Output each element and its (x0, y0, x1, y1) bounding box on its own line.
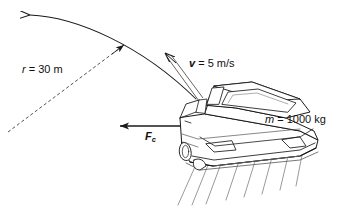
radius-equals: = (26, 63, 39, 75)
label-force: Fc (145, 131, 156, 144)
mass-symbol: m (265, 113, 274, 125)
physics-diagram-canvas (0, 0, 343, 209)
velocity-value: 5 m/s (208, 57, 235, 69)
velocity-equals: = (195, 57, 208, 69)
force-symbol: F (145, 130, 152, 142)
label-radius: r = 30 m (22, 64, 63, 75)
mass-value: 1000 kg (287, 113, 326, 125)
label-velocity: v = 5 m/s (189, 58, 235, 69)
car-wheel-hub-left (182, 145, 188, 157)
label-mass: m = 1000 kg (265, 114, 326, 125)
force-subscript: c (152, 135, 156, 144)
mass-equals: = (274, 113, 287, 125)
radius-value: 30 m (38, 63, 62, 75)
